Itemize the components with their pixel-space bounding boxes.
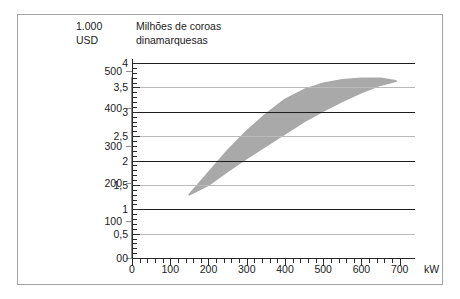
y-tick-major bbox=[133, 209, 140, 210]
y-tick-minor bbox=[133, 126, 137, 127]
y-tick-minor bbox=[133, 151, 137, 152]
x-tick-minor bbox=[377, 259, 378, 263]
unit-right-line2: dinamarquesas bbox=[136, 33, 221, 47]
plot-area: 00,511,522,533,54 0100200300400500600700… bbox=[132, 63, 415, 258]
y-tick-minor bbox=[133, 146, 137, 147]
y-tick-minor bbox=[133, 204, 137, 205]
y-axis-labels: 00,511,522,533,54 bbox=[98, 63, 132, 258]
x-tick-minor bbox=[308, 259, 309, 263]
y-tick-major bbox=[133, 161, 140, 162]
y-axis-tick-label: 3,5 bbox=[113, 81, 128, 93]
y-tick-minor bbox=[133, 180, 137, 181]
y-axis-tick-label: 1,5 bbox=[113, 179, 128, 191]
x-tick-minor bbox=[140, 259, 141, 263]
x-axis-labels: 0100200300400500600700 bbox=[132, 263, 415, 279]
x-tick-minor bbox=[293, 259, 294, 263]
gridline-major bbox=[132, 63, 415, 64]
y-tick-major bbox=[133, 185, 140, 186]
y-tick-minor bbox=[133, 170, 137, 171]
x-tick-minor bbox=[354, 259, 355, 263]
y-tick-minor bbox=[133, 165, 137, 166]
y-tick-minor bbox=[133, 107, 137, 108]
x-tick-minor bbox=[147, 259, 148, 263]
y-tick-minor bbox=[133, 102, 137, 103]
y-tick-minor bbox=[133, 141, 137, 142]
y-tick-major bbox=[133, 112, 140, 113]
y-tick-minor bbox=[133, 175, 137, 176]
gridline-major bbox=[132, 161, 415, 162]
y-tick-minor bbox=[133, 117, 137, 118]
x-axis-unit-label: kW bbox=[424, 263, 439, 275]
y-axis-tick-label: 2 bbox=[122, 155, 128, 167]
x-tick-major bbox=[247, 259, 248, 266]
unit-caption-block: 1.000 USD Milhões de coroas dinamarquesa… bbox=[76, 19, 221, 47]
x-tick-minor bbox=[186, 259, 187, 263]
x-tick-minor bbox=[178, 259, 179, 263]
unit-left-line1: 1.000 bbox=[76, 19, 122, 33]
y-tick-minor bbox=[133, 243, 137, 244]
y-tick-minor bbox=[133, 78, 137, 79]
x-tick-minor bbox=[384, 259, 385, 263]
x-tick-minor bbox=[392, 259, 393, 263]
unit-right-line1: Milhões de coroas bbox=[136, 19, 221, 33]
x-tick-major bbox=[400, 259, 401, 266]
x-tick-minor bbox=[262, 259, 263, 263]
y-axis-tick-label: 3 bbox=[122, 106, 128, 118]
x-tick-minor bbox=[201, 259, 202, 263]
gridline-minor bbox=[132, 234, 415, 235]
x-tick-major bbox=[170, 259, 171, 266]
x-tick-major bbox=[361, 259, 362, 266]
x-tick-minor bbox=[316, 259, 317, 263]
y-tick-minor bbox=[133, 214, 137, 215]
y-tick-major bbox=[133, 234, 140, 235]
x-tick-minor bbox=[155, 259, 156, 263]
y-tick-minor bbox=[133, 190, 137, 191]
y-axis-tick-label: 4 bbox=[122, 57, 128, 69]
y-tick-major bbox=[133, 63, 140, 64]
y-axis-tick-label: 1 bbox=[122, 203, 128, 215]
gridline-minor bbox=[132, 136, 415, 137]
x-tick-minor bbox=[339, 259, 340, 263]
y-tick-major bbox=[133, 136, 140, 137]
gridline-minor bbox=[132, 87, 415, 88]
x-tick-minor bbox=[239, 259, 240, 263]
gridline-major bbox=[132, 209, 415, 210]
y-tick-minor bbox=[133, 219, 137, 220]
plot-inner bbox=[132, 63, 415, 258]
x-tick-minor bbox=[277, 259, 278, 263]
y-tick-minor bbox=[133, 97, 137, 98]
y-tick-minor bbox=[133, 156, 137, 157]
gridline-major bbox=[132, 112, 415, 113]
x-tick-minor bbox=[231, 259, 232, 263]
unit-caption-left: 1.000 USD bbox=[76, 19, 122, 47]
figure-frame: 1.000 USD Milhões de coroas dinamarquesa… bbox=[17, 14, 443, 285]
y-tick-minor bbox=[133, 248, 137, 249]
y-tick-minor bbox=[133, 131, 137, 132]
unit-left-line2: USD bbox=[76, 33, 122, 47]
y-tick-minor bbox=[133, 224, 137, 225]
x-tick-minor bbox=[224, 259, 225, 263]
x-tick-minor bbox=[216, 259, 217, 263]
y-axis-tick-label: 2,5 bbox=[113, 130, 128, 142]
x-tick-minor bbox=[331, 259, 332, 263]
x-tick-minor bbox=[369, 259, 370, 263]
x-tick-minor bbox=[300, 259, 301, 263]
y-tick-minor bbox=[133, 253, 137, 254]
y-tick-minor bbox=[133, 229, 137, 230]
x-tick-minor bbox=[254, 259, 255, 263]
x-axis-line bbox=[132, 258, 415, 259]
y-tick-minor bbox=[133, 68, 137, 69]
y-tick-minor bbox=[133, 239, 137, 240]
y-tick-minor bbox=[133, 83, 137, 84]
y-tick-minor bbox=[133, 122, 137, 123]
y-axis-tick-label: 0 bbox=[122, 252, 128, 264]
unit-caption-right: Milhões de coroas dinamarquesas bbox=[136, 19, 221, 47]
y-tick-minor bbox=[133, 73, 137, 74]
x-tick-major bbox=[132, 259, 133, 266]
x-tick-minor bbox=[193, 259, 194, 263]
x-tick-minor bbox=[346, 259, 347, 263]
y-tick-minor bbox=[133, 200, 137, 201]
gridline-minor bbox=[132, 185, 415, 186]
x-tick-major bbox=[285, 259, 286, 266]
x-tick-minor bbox=[270, 259, 271, 263]
